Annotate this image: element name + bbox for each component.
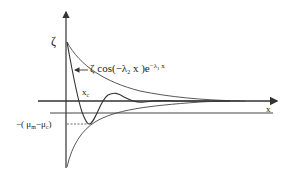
formula-mid: x )e [130, 62, 150, 74]
formula-prefix: ζ cos(−λ [90, 62, 127, 74]
xc-label: xc [82, 88, 89, 98]
diagram-canvas [0, 0, 290, 179]
formula-exponent: −λ1 x [150, 62, 165, 70]
x-axis-label: x [266, 105, 271, 114]
offset-label: −( μm−μc) [16, 120, 51, 130]
y-axis-label: ζ [51, 35, 56, 47]
damped-cosine-curve [67, 42, 230, 124]
lower-envelope [67, 101, 245, 167]
formula-label: ζ cos(−λ2 x )e−λ1 x [90, 63, 165, 75]
